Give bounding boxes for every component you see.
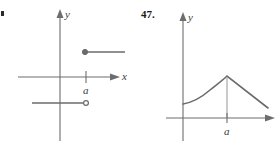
figures-canvas: y x a 47. y	[0, 0, 278, 146]
left-x-axis-arrow-icon	[110, 74, 120, 81]
left-y-axis-arrow-icon	[57, 9, 64, 18]
left-figure-crop-artifact	[1, 11, 4, 16]
left-lower-ray-open-endpoint	[84, 101, 89, 106]
right-figure: 47. y a	[141, 8, 275, 141]
right-tick-label-a: a	[224, 125, 230, 137]
right-figure-exercise-number: 47.	[141, 8, 155, 20]
left-upper-ray-filled-endpoint	[82, 49, 87, 54]
left-figure: y x a	[1, 8, 127, 141]
right-y-axis-label: y	[187, 11, 193, 23]
left-x-axis-label: x	[121, 70, 127, 82]
left-y-axis-label: y	[64, 8, 70, 20]
right-y-axis-arrow-icon	[180, 12, 187, 21]
left-tick-label-a: a	[83, 84, 89, 96]
right-x-axis-arrow-icon	[265, 115, 275, 122]
right-curve	[183, 76, 268, 108]
figure-pair-container: y x a 47. y	[0, 0, 278, 146]
